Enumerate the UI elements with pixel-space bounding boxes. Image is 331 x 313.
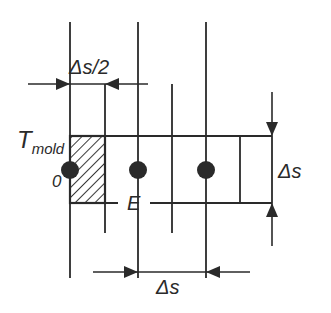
arrow-down-icon bbox=[266, 122, 278, 136]
arrow-right-icon bbox=[124, 266, 138, 278]
horizontal-step-label: Δs bbox=[155, 276, 179, 298]
finite-difference-grid-diagram: Δs/2 Δs Δs Tmold 0 E bbox=[0, 0, 331, 313]
mold-temperature-label: Tmold bbox=[17, 126, 65, 157]
arrow-left-icon bbox=[105, 78, 119, 90]
node-dot-0 bbox=[61, 161, 79, 179]
mold-temperature-subscript: mold bbox=[32, 140, 65, 157]
origin-label: 0 bbox=[52, 172, 62, 191]
node-dot-e bbox=[129, 161, 147, 179]
node-e-label: E bbox=[127, 192, 141, 214]
node-dot-2 bbox=[197, 161, 215, 179]
half-step-label: Δs/2 bbox=[68, 56, 109, 78]
arrow-right-icon bbox=[56, 78, 70, 90]
arrow-up-icon bbox=[266, 203, 278, 217]
vertical-step-label: Δs bbox=[277, 160, 301, 182]
arrow-left-icon bbox=[206, 266, 220, 278]
